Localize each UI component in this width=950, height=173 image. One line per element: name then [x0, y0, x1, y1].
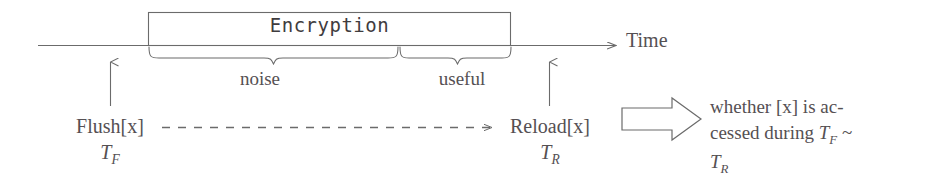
implication-line-3: TR	[710, 149, 948, 173]
flush-time-label: TF	[50, 142, 170, 167]
implication-line-3-var: T	[710, 151, 721, 172]
encryption-box-label: Encryption	[148, 16, 511, 35]
flush-reload-timeline-diagram: Encryption Time noise useful Flush[x] TF…	[0, 0, 950, 173]
flush-marker-label: Flush[x]	[50, 116, 170, 136]
block-arrow-outline	[622, 98, 701, 140]
implication-line-2-sub: F	[829, 132, 837, 147]
implication-line-2-prefix: cessed during	[710, 122, 819, 143]
brace-noise	[149, 47, 398, 64]
implication-text: whether [x] is ac- cessed during TF ~ TR	[710, 94, 948, 173]
block-arrow-right-icon	[622, 98, 701, 140]
flush-time-subscript: F	[111, 152, 119, 167]
reload-marker-label: Reload[x]	[490, 116, 610, 136]
brace-label-useful: useful	[407, 69, 517, 88]
implication-line-2-suffix: ~	[837, 122, 852, 143]
implication-line-1: whether [x] is ac-	[710, 94, 948, 120]
flush-time-symbol: T	[100, 141, 111, 163]
brace-useful	[400, 47, 511, 64]
implication-line-2: cessed during TF ~	[710, 120, 948, 149]
implication-line-3-sub: R	[721, 161, 729, 173]
implication-line-2-var: T	[819, 122, 830, 143]
reload-time-subscript: R	[551, 152, 559, 167]
time-axis-label: Time	[626, 30, 668, 50]
brace-label-noise: noise	[200, 69, 320, 88]
reload-time-symbol: T	[540, 141, 551, 163]
reload-time-label: TR	[490, 142, 610, 167]
